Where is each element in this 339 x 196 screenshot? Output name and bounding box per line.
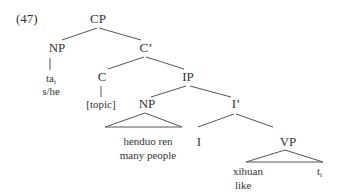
- leaf-verb: xihuan: [233, 165, 263, 178]
- leaf-trace: ti: [317, 165, 322, 178]
- leaf-trace-index: i: [320, 171, 322, 179]
- node-c-bar: C’: [140, 41, 153, 54]
- leaf-ta: tai: [46, 72, 56, 85]
- leaf-np-text: henduo ren: [123, 135, 172, 148]
- node-i: I: [197, 135, 201, 148]
- leaf-verb-gloss: like: [235, 179, 252, 192]
- example-number: (47): [16, 12, 38, 25]
- node-vp: VP: [280, 135, 297, 148]
- node-i-bar: I’: [232, 97, 241, 110]
- node-np-object: NP: [139, 97, 156, 110]
- node-cp: CP: [90, 12, 106, 25]
- tree-edges: [0, 0, 339, 196]
- node-np-subject: NP: [49, 41, 66, 54]
- node-c: C: [98, 70, 107, 83]
- leaf-ta-text: ta: [46, 72, 54, 84]
- leaf-ta-gloss: s/he: [42, 85, 60, 98]
- node-ip: IP: [182, 70, 194, 83]
- leaf-topic: [topic]: [86, 98, 115, 111]
- leaf-np-gloss: many people: [120, 149, 177, 162]
